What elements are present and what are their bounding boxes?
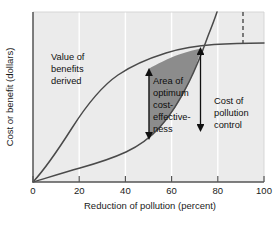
optimum-area-line-1: Area of [153, 76, 183, 86]
cost-annotation-line-3: control [214, 120, 242, 130]
cost-annotation-line-1: Cost of [214, 96, 244, 106]
optimum-area-line-2: optimum [153, 88, 189, 98]
benefits-annotation-line-2: benefits [51, 64, 84, 74]
x-axis-title: Reduction of pollution (percent) [84, 200, 216, 211]
optimum-area-line-4: effective- [153, 112, 191, 122]
chart-figure: 0 20 40 60 80 100 Reduction of pollution… [0, 0, 276, 228]
optimum-area-line-3: cost- [153, 100, 173, 110]
xtick-label-20: 20 [74, 185, 85, 196]
benefits-annotation-line-3: derived [51, 76, 82, 86]
xtick-label-100: 100 [256, 185, 272, 196]
y-axis-title: Cost or benefit (dollars) [4, 48, 15, 147]
cost-annotation-line-2: pollution [214, 108, 249, 118]
xtick-label-0: 0 [30, 185, 35, 196]
xtick-label-40: 40 [120, 185, 131, 196]
chart-canvas: 0 20 40 60 80 100 Reduction of pollution… [0, 0, 276, 228]
xtick-label-60: 60 [166, 185, 177, 196]
optimum-area-line-5: ness [153, 124, 173, 134]
benefits-annotation: Value of benefits derived [51, 52, 85, 86]
benefits-annotation-line-1: Value of [51, 52, 85, 62]
xtick-label-80: 80 [213, 185, 224, 196]
